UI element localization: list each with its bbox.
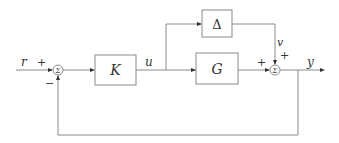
sum1-to-k-edge (63, 68, 95, 72)
block-g-label: G (211, 61, 222, 77)
sum2-plus-sign-g: + (257, 56, 266, 69)
sum1-plus-sign: + (37, 56, 46, 69)
block-k-label: K (109, 62, 122, 78)
signal-u-label: u (145, 55, 153, 69)
block-delta-label: Δ (212, 17, 221, 32)
arrow-into-g (191, 68, 196, 72)
block-delta: Δ (202, 10, 232, 37)
signal-v-label: v (277, 36, 284, 49)
sigma-2-label: Σ (272, 67, 278, 75)
block-k: K (95, 55, 136, 85)
summing-junction-2: Σ (270, 65, 280, 75)
sum2-plus-sign-v: + (280, 49, 289, 62)
delta-to-sum2-edge (232, 24, 277, 65)
block-g: G (196, 53, 238, 84)
sigma-1-label: Σ (55, 67, 61, 75)
block-diagram: r + Σ − K u Δ v + G (0, 0, 339, 143)
sum1-minus-sign: − (45, 77, 54, 90)
signal-r-label: r (21, 55, 28, 69)
output-y-edge (280, 68, 325, 72)
summing-junction-1: Σ (53, 65, 63, 75)
signal-y-label: y (306, 55, 314, 69)
feedback-edge (56, 70, 298, 135)
